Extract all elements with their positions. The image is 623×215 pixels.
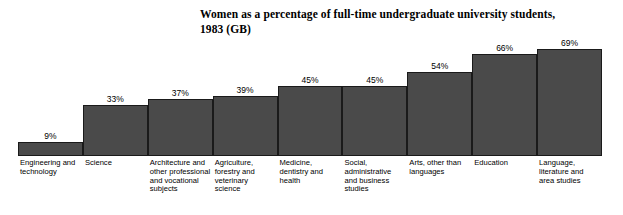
bar-value-label: 39% (213, 85, 278, 95)
bar (537, 49, 602, 156)
category-label: Architecture and other professional and … (150, 159, 215, 194)
bar (472, 54, 537, 156)
bar (213, 96, 278, 156)
bar (148, 99, 213, 156)
category-label: Education (474, 159, 539, 168)
bar-value-label: 69% (537, 38, 602, 48)
bar-value-label: 33% (83, 94, 148, 104)
category-label: Medicine, dentistry and health (280, 159, 345, 185)
bar (18, 142, 83, 156)
bar-value-label: 66% (472, 43, 537, 53)
bar-value-label: 37% (148, 88, 213, 98)
bar-value-label: 9% (18, 131, 83, 141)
category-label: Social, administrative and business stud… (344, 159, 409, 194)
bar-value-label: 45% (342, 75, 407, 85)
category-label: Engineering and technology (20, 159, 85, 177)
bar-column: 54% (407, 40, 472, 156)
bar-column: 39% (213, 40, 278, 156)
bar-column: 66% (472, 40, 537, 156)
category-label: Science (85, 159, 150, 168)
bar-column: 9% (18, 40, 83, 156)
title-line-1: Women as a percentage of full-time under… (200, 7, 612, 22)
bar (83, 105, 148, 156)
bar-column: 69% (537, 40, 602, 156)
page-title: Women as a percentage of full-time under… (200, 7, 612, 37)
bar (278, 86, 343, 156)
bar-column: 37% (148, 40, 213, 156)
bar-column: 45% (342, 40, 407, 156)
bar-value-label: 45% (278, 75, 343, 85)
bar-column: 45% (278, 40, 343, 156)
category-label: Arts, other than languages (409, 159, 474, 177)
chart-screenshot: Women as a percentage of full-time under… (0, 0, 623, 215)
bar-column: 33% (83, 40, 148, 156)
category-label: Language, literature and area studies (539, 159, 604, 185)
category-label: Agriculture, forestry and veterinary sci… (215, 159, 280, 194)
title-line-2: 1983 (GB) (200, 22, 612, 37)
category-labels-row: Engineering and technologyScienceArchite… (18, 159, 602, 213)
bar-value-label: 54% (407, 61, 472, 71)
bar (407, 72, 472, 156)
axis-baseline (18, 155, 602, 156)
plot-area: 9%33%37%39%45%45%54%66%69% (18, 40, 602, 156)
bar (342, 86, 407, 156)
